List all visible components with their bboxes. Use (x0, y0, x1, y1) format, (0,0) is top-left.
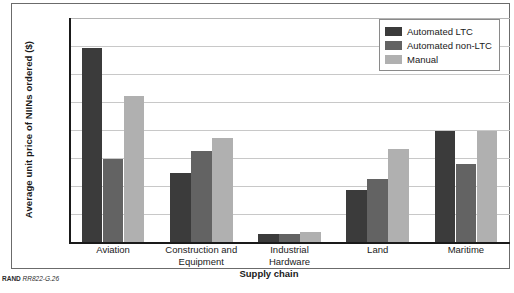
x-axis-category-label: Aviation (69, 244, 157, 256)
bar (103, 159, 124, 242)
legend-swatch-icon (385, 41, 402, 50)
legend: Automated LTCAutomated non-LTCManual (379, 19, 500, 71)
bar (124, 96, 145, 242)
x-axis-category-label-line: Industrial (245, 244, 333, 256)
bar (367, 179, 388, 242)
bar (191, 151, 212, 242)
legend-swatch-icon (385, 55, 402, 64)
x-axis-category-label-line: Construction and (157, 244, 245, 256)
bar (258, 234, 279, 242)
legend-item-label: Automated non-LTC (407, 40, 492, 51)
chart-frame: Average unit price of NIINs ordered ($) … (11, 3, 510, 269)
y-axis-title: Average unit price of NIINs ordered ($) (23, 15, 34, 245)
legend-swatch-icon (385, 27, 402, 36)
x-axis-category-label-line: Aviation (69, 244, 157, 256)
bar (456, 164, 477, 242)
x-axis-category-label: Construction andEquipment (157, 244, 245, 267)
x-axis-category-label-line: Equipment (157, 256, 245, 268)
legend-item: Manual (385, 52, 492, 66)
bar-group (69, 18, 157, 242)
x-axis-category-label-line: Maritime (422, 244, 510, 256)
bar (346, 190, 367, 243)
bar (212, 138, 233, 242)
legend-item-label: Manual (407, 54, 438, 65)
x-axis-category-label: IndustrialHardware (245, 244, 333, 267)
bar (477, 131, 498, 242)
legend-item-label: Automated LTC (407, 26, 473, 37)
bar (170, 173, 191, 242)
source-note-id: RR822-G.26 (23, 275, 60, 282)
x-axis-category-label-line: Hardware (245, 256, 333, 268)
bar-group (157, 18, 245, 242)
bar-group (245, 18, 333, 242)
legend-item: Automated LTC (385, 24, 492, 38)
figure: Average unit price of NIINs ordered ($) … (0, 0, 514, 293)
x-axis-category-labels: AviationConstruction andEquipmentIndustr… (69, 244, 510, 270)
bar (279, 234, 300, 242)
bar (300, 232, 321, 243)
x-axis-title: Supply chain (12, 268, 514, 279)
source-note-prefix: RAND (2, 275, 21, 282)
legend-item: Automated non-LTC (385, 38, 492, 52)
source-note: RAND RR822-G.26 (2, 275, 59, 282)
x-axis-category-label: Maritime (422, 244, 510, 256)
x-axis-category-label-line: Land (334, 244, 422, 256)
bar (82, 48, 103, 242)
bar (388, 149, 409, 242)
bar (435, 131, 456, 242)
x-axis-category-label: Land (334, 244, 422, 256)
